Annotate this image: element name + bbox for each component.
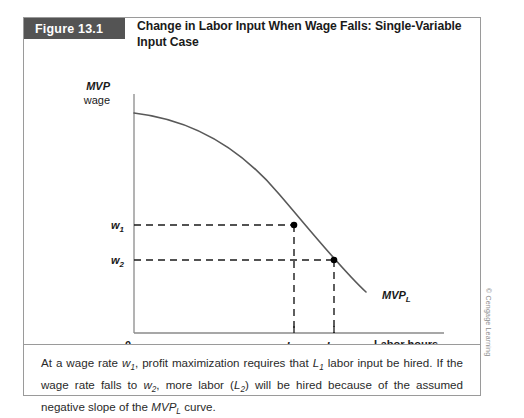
curve-label-mvpl: MVPL [382, 289, 411, 304]
y-tick-label-w1: w1 [111, 219, 125, 234]
figure-title: Change in Labor Input When Wage Falls: S… [125, 18, 480, 50]
copyright-credit: © Cengage Learning [485, 288, 492, 356]
mvp-curve [134, 113, 366, 292]
figure-header: Figure 13.1 Change in Labor Input When W… [24, 18, 480, 64]
figure-caption: At a wage rate w1, profit maximization r… [24, 345, 480, 418]
data-point-w2-l2 [331, 257, 338, 264]
y-axis-label-line2: wage [83, 94, 110, 106]
figure-container: Figure 13.1 Change in Labor Input When W… [23, 17, 481, 396]
chart-plot-area: MVP wage w1 w2 0 L1 L2 Labor hours per w… [24, 64, 480, 345]
figure-number-badge: Figure 13.1 [24, 18, 125, 39]
chart-svg: MVP wage w1 w2 0 L1 L2 Labor hours per w… [24, 64, 482, 345]
y-axis-label-line1: MVP [86, 80, 111, 92]
y-tick-label-w2: w2 [111, 254, 125, 269]
data-point-w1-l1 [291, 222, 298, 229]
